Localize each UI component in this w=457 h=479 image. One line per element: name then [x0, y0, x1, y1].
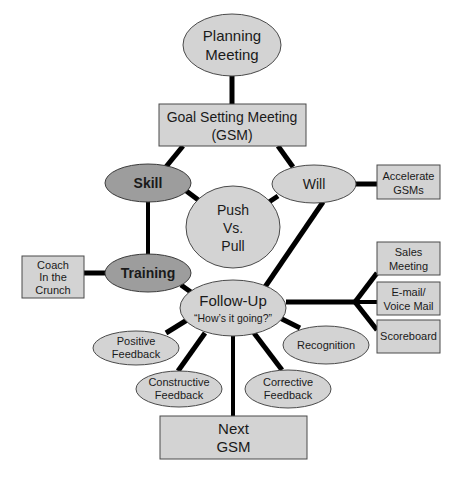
node-skill: Skill: [105, 164, 191, 202]
node-next-gsm: Next GSM: [160, 416, 307, 459]
training-label: Training: [121, 265, 175, 281]
will-label: Will: [303, 176, 326, 192]
constructive-line-2: Feedback: [155, 389, 204, 401]
planning-line-2: Meeting: [205, 46, 258, 63]
coach-line-3: Crunch: [35, 284, 70, 296]
pushpull-line-1: Push: [217, 202, 249, 218]
node-training: Training: [105, 254, 191, 292]
email-line-2: Voice Mail: [383, 300, 433, 312]
nextgsm-line-2: GSM: [216, 438, 250, 455]
constructive-line-1: Constructive: [148, 376, 209, 388]
edge-gsm-will: [278, 146, 293, 167]
edge-followup-recognition: [280, 318, 300, 328]
node-email-voice-mail: E-mail/ Voice Mail: [377, 282, 440, 315]
accelerate-line-1: Accelerate: [383, 170, 435, 182]
node-positive-feedback: Positive Feedback: [93, 331, 179, 365]
edge-gsm-skill: [165, 146, 183, 168]
edge-followup-positive: [166, 320, 187, 333]
node-will: Will: [272, 165, 356, 203]
email-line-1: E-mail/: [391, 286, 426, 298]
node-goal-setting-meeting: Goal Setting Meeting (GSM): [159, 104, 306, 146]
node-coach-in-the-crunch: Coach In the Crunch: [22, 256, 84, 298]
gsm-line-2: (GSM): [211, 127, 252, 143]
node-recognition: Recognition: [283, 326, 369, 364]
node-scoreboard: Scoreboard: [377, 320, 440, 353]
edge-hub-sales: [355, 273, 377, 302]
node-constructive-feedback: Constructive Feedback: [136, 371, 222, 407]
process-diagram: Planning Meeting Goal Setting Meeting (G…: [0, 0, 457, 479]
node-accelerate-gsms: Accelerate GSMs: [377, 165, 440, 199]
accelerate-line-2: GSMs: [393, 184, 424, 196]
node-corrective-feedback: Corrective Feedback: [245, 370, 331, 408]
edge-hub-scoreboard: [355, 302, 377, 330]
skill-label: Skill: [134, 175, 163, 191]
scoreboard-label: Scoreboard: [380, 330, 437, 342]
pushpull-line-3: Pull: [221, 238, 244, 254]
edge-followup-constructive: [178, 333, 205, 371]
gsm-line-1: Goal Setting Meeting: [167, 109, 298, 125]
followup-line-1: Follow-Up: [199, 292, 267, 309]
pushpull-line-2: Vs.: [223, 220, 243, 236]
nextgsm-line-1: Next: [218, 420, 250, 437]
node-planning-meeting: Planning Meeting: [183, 14, 281, 76]
corrective-line-1: Corrective: [263, 376, 313, 388]
node-follow-up: Follow-Up “How’s it going?”: [180, 280, 286, 336]
sales-line-2: Meeting: [389, 260, 428, 272]
coach-line-1: Coach: [37, 259, 69, 271]
corrective-line-2: Feedback: [264, 389, 313, 401]
sales-line-1: Sales: [395, 246, 423, 258]
coach-line-2: In the: [39, 271, 67, 283]
planning-line-1: Planning: [203, 27, 261, 44]
node-push-vs-pull: Push Vs. Pull: [186, 186, 280, 268]
positive-line-1: Positive: [117, 335, 156, 347]
followup-line-2: “How’s it going?”: [194, 312, 273, 324]
recognition-label: Recognition: [297, 339, 355, 351]
positive-line-2: Feedback: [112, 348, 161, 360]
edge-followup-corrective: [254, 333, 282, 370]
node-sales-meeting: Sales Meeting: [377, 242, 440, 275]
